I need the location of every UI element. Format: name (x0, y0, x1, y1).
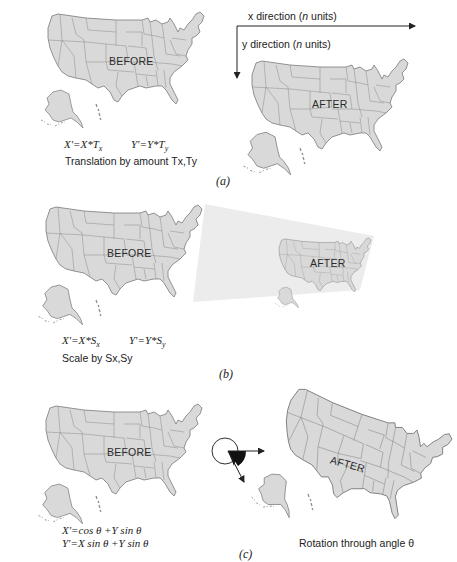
hawaii-before-a (96, 104, 106, 124)
hawaii-after-a (300, 148, 310, 168)
caption-b: Scale by Sx,Sy (62, 352, 133, 364)
before-label-a: BEFORE (109, 55, 153, 67)
alaska-before-c (14, 484, 84, 526)
alaska-before-a (16, 90, 86, 130)
before-label-b: BEFORE (107, 247, 151, 259)
alaska-after-c (240, 470, 300, 515)
equation-a-y: Y'=Y*Ty (131, 138, 168, 153)
alaska-before-b (14, 285, 84, 327)
panel-label-c: (c) (239, 547, 252, 562)
panel-label-a: (a) (216, 174, 230, 189)
after-label-a: AFTER (312, 98, 347, 110)
before-label-c: BEFORE (107, 446, 151, 458)
hawaii-after-c (308, 494, 318, 514)
equation-b-x: X'=X*Sx (62, 334, 100, 349)
equation-b-y: Y'=Y*Sy (129, 334, 166, 349)
hawaii-before-c (96, 496, 106, 516)
hawaii-before-b (96, 300, 106, 320)
equation-c-2: Y'=X sin θ +Y sin θ (62, 537, 148, 549)
x-direction-label: x direction (n units) (248, 10, 337, 22)
equation-c-1: X'=cos θ +Y sin θ (62, 524, 141, 536)
alaska-after-b (262, 286, 302, 308)
caption-a: Translation by amount Tx,Ty (65, 155, 197, 167)
panel-label-b: (b) (219, 367, 233, 382)
equation-a-x: X'=X*Tx (64, 138, 102, 153)
after-label-b: AFTER (310, 257, 345, 269)
y-direction-label: y direction (n units) (242, 38, 331, 50)
alaska-after-a (222, 130, 292, 175)
caption-c: Rotation through angle θ (299, 537, 414, 549)
